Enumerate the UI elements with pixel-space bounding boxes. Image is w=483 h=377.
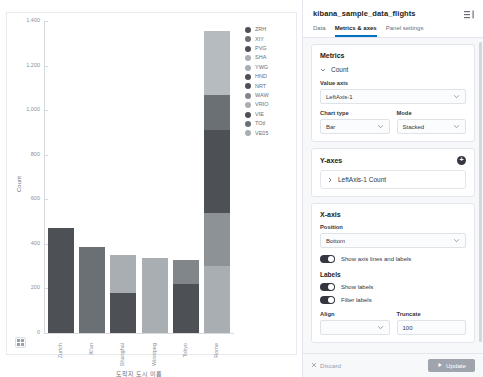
panel-body: Metrics Count Value axis LeftAxis-1 xyxy=(303,38,483,353)
legend-label: WAW xyxy=(255,93,269,99)
bar-segment[interactable] xyxy=(142,258,168,333)
panel-footer: Discard Update xyxy=(303,353,483,377)
yaxes-title: Y-axes xyxy=(320,157,342,164)
legend-item[interactable]: VIE xyxy=(245,112,269,118)
chevron-down-icon xyxy=(453,93,460,101)
collapse-panel-icon[interactable] xyxy=(463,9,475,20)
tab-panel-settings[interactable]: Panel settings xyxy=(386,25,424,37)
value-axis-value: LeftAxis-1 xyxy=(326,94,353,100)
legend-item[interactable]: TOtl xyxy=(245,121,269,127)
legend-item[interactable]: VE05 xyxy=(245,130,269,136)
bar-segment[interactable] xyxy=(173,284,199,333)
legend-item[interactable]: VRIO xyxy=(245,102,269,108)
filter-labels-toggle-row[interactable]: Filter labels xyxy=(320,296,466,304)
stacked-bar[interactable] xyxy=(142,258,168,333)
filter-labels-label: Filter labels xyxy=(341,297,372,303)
legend-label: PVG xyxy=(255,46,267,52)
legend-color-dot xyxy=(245,130,251,136)
metrics-count-accordion[interactable]: Count xyxy=(320,65,466,74)
mode-value: Stacked xyxy=(403,124,425,130)
truncate-value: 100 xyxy=(403,325,413,331)
chart-type-label: Chart type xyxy=(320,110,390,116)
update-button[interactable]: Update xyxy=(428,359,475,372)
close-icon xyxy=(311,362,317,369)
legend-item[interactable]: ZRH xyxy=(245,27,269,33)
legend-item[interactable]: XIY xyxy=(245,36,269,42)
x-tick-label: Zurich xyxy=(58,343,64,358)
tab-data[interactable]: Data xyxy=(313,25,326,37)
chart-type-select[interactable]: Bar xyxy=(320,119,390,134)
legend-item[interactable]: SHA xyxy=(245,55,269,61)
bar-segment[interactable] xyxy=(48,228,74,333)
legend-item[interactable]: PVG xyxy=(245,46,269,52)
bar-segment[interactable] xyxy=(79,247,105,333)
y-tick-mark xyxy=(45,333,48,334)
legend-color-dot xyxy=(245,65,251,71)
bar-segment[interactable] xyxy=(204,95,230,130)
panel-scrollbar[interactable] xyxy=(479,42,482,342)
stacked-bar[interactable] xyxy=(173,260,199,333)
align-select[interactable] xyxy=(320,320,390,335)
options-panel: kibana_sample_data_flights DataMetrics &… xyxy=(303,0,483,377)
stacked-bar[interactable] xyxy=(79,247,105,333)
tab-metrics-axes[interactable]: Metrics & axes xyxy=(335,25,377,37)
x-tick-label: Shanghai xyxy=(120,343,126,366)
chart-frame: Count 02004006008001,0001,2001,400 Zuric… xyxy=(6,12,297,355)
yaxis-item-row[interactable]: LeftAxis-1 Count xyxy=(327,176,459,183)
x-tick-label: Winnipeg xyxy=(152,343,158,366)
legend-item[interactable]: NRT xyxy=(245,83,269,89)
metrics-card: Metrics Count Value axis LeftAxis-1 xyxy=(311,44,475,142)
legend-color-dot xyxy=(245,121,251,127)
legend-item[interactable]: YWG xyxy=(245,65,269,71)
add-yaxis-button[interactable]: + xyxy=(457,156,466,165)
x-axis-title: 도착지 도시 이름 xyxy=(44,369,234,377)
show-labels-toggle[interactable] xyxy=(320,283,335,291)
xaxis-position-label: Position xyxy=(320,224,466,230)
y-tick-label: 1,200 xyxy=(26,63,40,69)
chart-type-value: Bar xyxy=(326,124,335,130)
bar-group xyxy=(170,21,201,333)
labels-group-title: Labels xyxy=(320,271,466,278)
grid-icon[interactable] xyxy=(15,337,26,348)
x-axis-line xyxy=(44,333,234,334)
bar-segment[interactable] xyxy=(173,260,199,285)
stacked-bar[interactable] xyxy=(204,31,230,333)
y-tick-label: 1,400 xyxy=(26,18,40,24)
yaxis-item[interactable]: LeftAxis-1 Count xyxy=(320,170,466,189)
bar-segment[interactable] xyxy=(204,130,230,213)
truncate-input[interactable]: 100 xyxy=(397,320,467,335)
legend-color-dot xyxy=(245,112,251,118)
show-labels-toggle-row[interactable]: Show labels xyxy=(320,283,466,291)
stacked-bar[interactable] xyxy=(48,228,74,333)
stacked-bar[interactable] xyxy=(110,255,136,333)
bar-segment[interactable] xyxy=(110,255,136,293)
legend-item[interactable]: HND xyxy=(245,74,269,80)
bar-segment[interactable] xyxy=(204,266,230,333)
y-tick-label: 200 xyxy=(31,286,40,292)
legend-label: VIE xyxy=(255,112,264,118)
show-axis-lines-toggle-row[interactable]: Show axis lines and labels xyxy=(320,255,466,263)
legend-item[interactable]: WAW xyxy=(245,93,269,99)
legend-color-dot xyxy=(245,55,251,61)
value-axis-select[interactable]: LeftAxis-1 xyxy=(320,89,466,104)
legend-color-dot xyxy=(245,27,251,33)
filter-labels-toggle[interactable] xyxy=(320,296,335,304)
bar-segment[interactable] xyxy=(110,293,136,333)
bar-segment[interactable] xyxy=(204,31,230,96)
page-title: kibana_sample_data_flights xyxy=(313,9,473,18)
show-axis-lines-toggle[interactable] xyxy=(320,255,335,263)
bar-segment[interactable] xyxy=(204,213,230,266)
legend-label: SHA xyxy=(255,55,266,61)
xaxis-card: X-axis Position Bottom Show axis lines a… xyxy=(311,203,475,343)
mode-select[interactable]: Stacked xyxy=(397,119,467,134)
discard-button[interactable]: Discard xyxy=(311,362,341,369)
yaxes-header: Y-axes + xyxy=(320,156,466,165)
legend-label: HND xyxy=(255,74,267,80)
legend-label: NRT xyxy=(255,84,266,90)
show-labels-label: Show labels xyxy=(341,284,373,290)
metrics-title: Metrics xyxy=(320,52,466,59)
legend-color-dot xyxy=(245,102,251,108)
bar-group xyxy=(108,21,139,333)
xaxis-position-select[interactable]: Bottom xyxy=(320,233,466,248)
legend-label: YWG xyxy=(255,65,268,71)
